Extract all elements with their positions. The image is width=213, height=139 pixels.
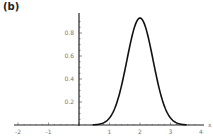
x-tick-label: -1	[46, 128, 52, 135]
x-tick-label: 4	[199, 128, 203, 135]
density-curve	[93, 18, 187, 125]
x-tick-label: 2	[138, 128, 142, 135]
density-chart: -2-112340.20.40.60.8x	[0, 0, 213, 139]
x-tick-label: -2	[15, 128, 21, 135]
ticks	[18, 22, 195, 126]
y-tick-label: 0.6	[64, 52, 74, 59]
y-tick-label: 0.2	[64, 98, 74, 105]
y-tick-label: 0.4	[64, 75, 74, 82]
x-axis-label: x	[208, 121, 212, 128]
tick-labels: -2-112340.20.40.60.8x	[15, 29, 212, 135]
x-tick-label: 3	[169, 128, 173, 135]
y-tick-label: 0.8	[64, 29, 74, 36]
x-tick-label: 1	[108, 128, 112, 135]
axes	[14, 13, 204, 126]
